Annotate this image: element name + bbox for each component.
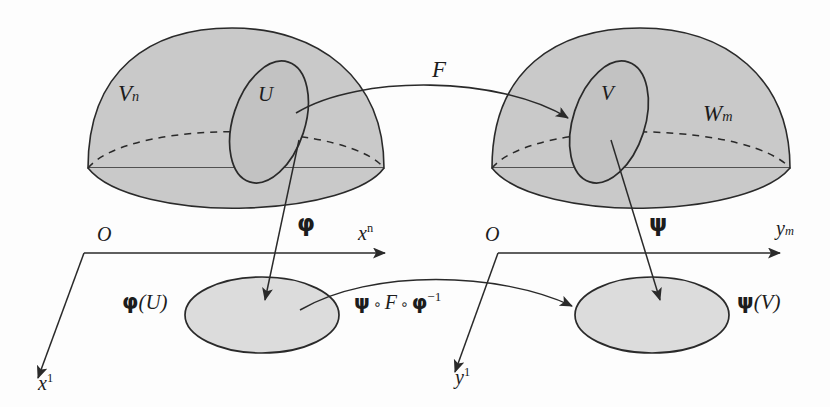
label-manifold-source-sub: n: [132, 88, 139, 104]
label-origin-right: O: [485, 224, 499, 244]
label-chart-image-phi-u-map: φ: [122, 290, 138, 314]
label-manifold-target-base: W: [703, 101, 722, 126]
label-open-set-u: U: [258, 84, 273, 105]
label-composite-phi: φ: [412, 290, 428, 314]
label-chart-image-psi-v-open: (V): [754, 290, 781, 314]
label-composite-inverse: −1: [427, 289, 441, 304]
label-origin-left: O: [97, 224, 111, 244]
label-manifold-source: Vn: [118, 82, 139, 105]
label-axis-y1-base: y: [455, 366, 464, 388]
chart-image-psi-v-ellipse: [575, 277, 729, 353]
label-axis-ym-sub: m: [785, 224, 794, 238]
label-manifold-target: Wm: [703, 102, 732, 125]
label-axis-x1-base: x: [38, 372, 47, 394]
label-chart-image-phi-u: φ(U): [122, 292, 168, 313]
label-composite-psi: ψ: [354, 290, 370, 314]
label-map-composite: ψ∘F∘φ−1: [354, 290, 441, 312]
label-chart-image-psi-v-map: ψ: [737, 290, 754, 314]
chart-image-phi-u-ellipse: [185, 277, 339, 353]
label-axis-ym-base: y: [776, 217, 785, 239]
label-map-psi: ψ: [649, 212, 667, 235]
diagram-canvas: Vn U Wm V F φ ψ O xn x1 φ(U) O ym y1 ψ(V…: [0, 0, 830, 407]
diagram-vector-layer: [0, 0, 830, 407]
label-chart-image-phi-u-open: (U): [138, 290, 167, 314]
label-axis-ym: ym: [776, 218, 794, 238]
label-chart-image-psi-v: ψ(V): [737, 292, 781, 313]
label-composite-ring-1: ∘: [370, 296, 385, 312]
label-map-F: F: [432, 58, 446, 81]
label-map-phi: φ: [297, 212, 315, 235]
label-axis-x1-sup: 1: [47, 371, 53, 385]
label-axis-y1-sup: 1: [464, 365, 470, 379]
label-manifold-target-sub: m: [722, 108, 732, 124]
label-composite-F: F: [385, 291, 397, 313]
label-manifold-source-base: V: [118, 81, 132, 106]
label-axis-y1: y1: [455, 366, 470, 387]
label-composite-ring-2: ∘: [397, 296, 412, 312]
label-axis-x1: x1: [38, 372, 53, 393]
label-axis-xn-sup: n: [367, 221, 373, 235]
label-axis-xn: xn: [358, 222, 373, 243]
label-open-set-v: V: [601, 83, 614, 104]
label-axis-xn-base: x: [358, 222, 367, 244]
